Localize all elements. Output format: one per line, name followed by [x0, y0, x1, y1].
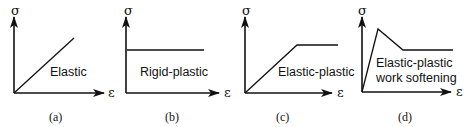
- sigma-label: σ: [124, 3, 133, 18]
- model-label-line-1: Elastic-plastic: [376, 56, 452, 70]
- stress-strain-models-diagram: σ ε Elastic (a) σ ε Rigid-plastic (b) σ …: [0, 0, 470, 127]
- panel-b: σ ε Rigid-plastic (b): [124, 3, 231, 124]
- panel-c: σ ε Elastic-plastic (c): [242, 3, 354, 124]
- sigma-label: σ: [242, 3, 251, 18]
- panel-caption: (d): [398, 110, 412, 124]
- epsilon-label: ε: [337, 85, 344, 100]
- model-label: Elastic: [50, 65, 87, 79]
- model-label-line-2: work softening: [375, 71, 457, 85]
- panel-caption: (a): [49, 110, 62, 124]
- panel-caption: (b): [165, 110, 179, 124]
- model-label: Elastic-plastic: [278, 65, 354, 79]
- sigma-label: σ: [11, 3, 20, 18]
- epsilon-label: ε: [224, 85, 231, 100]
- sigma-label: σ: [358, 3, 367, 18]
- epsilon-label: ε: [456, 84, 463, 99]
- model-label: Rigid-plastic: [140, 65, 208, 79]
- panel-caption: (c): [276, 110, 289, 124]
- panel-a: σ ε Elastic (a): [11, 3, 115, 124]
- panel-d: σ ε Elastic-plastic work softening (d): [358, 3, 463, 124]
- epsilon-label: ε: [108, 85, 115, 100]
